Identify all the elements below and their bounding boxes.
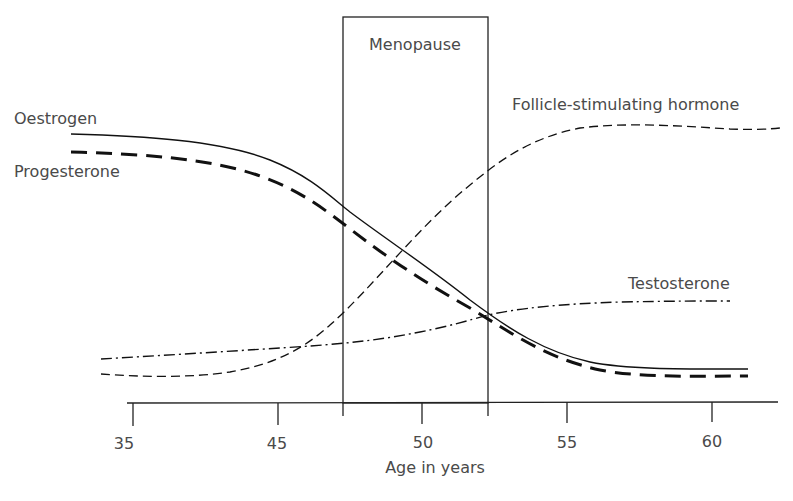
x-axis-ticks [133, 402, 712, 426]
oestrogen-label: Oestrogen [14, 109, 97, 128]
menopause-region [343, 17, 488, 403]
x-axis [127, 402, 778, 403]
tick-label-50: 50 [413, 433, 433, 452]
progesterone-label: Progesterone [14, 162, 120, 181]
menopause-label: Menopause [369, 35, 461, 54]
tick-label-55: 55 [557, 433, 577, 452]
progesterone-curve [71, 152, 748, 376]
hormone-levels-chart: Menopause 35 45 50 55 60 Age in years Oe… [0, 0, 793, 501]
tick-label-60: 60 [702, 432, 722, 451]
fsh-label: Follicle-stimulating hormone [512, 95, 739, 114]
tick-label-35: 35 [114, 434, 134, 453]
testosterone-label: Testosterone [627, 274, 730, 293]
x-tick-labels: 35 45 50 55 60 [114, 432, 722, 453]
x-axis-title: Age in years [385, 458, 485, 477]
tick-label-45: 45 [267, 434, 287, 453]
testosterone-curve [101, 301, 730, 359]
